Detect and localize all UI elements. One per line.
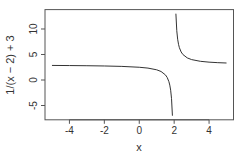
- x-tick-label: -4: [65, 125, 74, 136]
- y-axis-label: 1/(x − 2) + 3: [4, 35, 16, 94]
- x-tick-label: -2: [100, 125, 109, 136]
- y-tick-label: -5: [28, 101, 39, 110]
- curve-left-branch: [52, 65, 172, 115]
- y-tick-label: 0: [28, 77, 39, 83]
- y-tick-label: 10: [28, 23, 39, 35]
- chart: -4-2024 -50510 x 1/(x − 2) + 3: [0, 0, 243, 158]
- data-series: [52, 14, 227, 116]
- x-tick-label: 2: [171, 125, 177, 136]
- x-axis-label: x: [136, 141, 142, 153]
- x-axis: -4-2024: [65, 120, 212, 136]
- x-tick-label: 4: [206, 125, 212, 136]
- y-axis: -50510: [28, 23, 45, 110]
- plot-box: [45, 10, 234, 120]
- x-tick-label: 0: [136, 125, 142, 136]
- y-tick-label: 5: [28, 51, 39, 57]
- curve-right-branch: [176, 14, 227, 63]
